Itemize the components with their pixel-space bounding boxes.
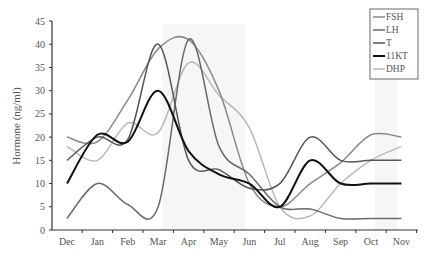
legend: FSHLHT11KTDHP — [370, 9, 418, 79]
x-tick-label: Oct — [364, 236, 379, 247]
line-chart: 051015202530354045DecJanFebMarAprMayJunJ… — [0, 0, 430, 256]
x-tick-label: Sep — [333, 236, 348, 247]
y-tick-label: 25 — [35, 108, 45, 119]
y-tick-label: 45 — [35, 16, 45, 27]
legend-label: 11KT — [386, 51, 408, 61]
shaded-region — [162, 24, 245, 230]
y-tick-label: 5 — [40, 201, 45, 212]
y-tick-label: 35 — [35, 62, 45, 73]
y-tick-label: 15 — [35, 155, 45, 166]
legend-label: LH — [386, 25, 399, 35]
x-tick-label: Jan — [91, 236, 104, 247]
x-tick-label: Nov — [393, 236, 410, 247]
y-tick-label: 10 — [35, 178, 45, 189]
legend-label: DHP — [386, 64, 405, 74]
x-tick-label: Apr — [181, 236, 197, 247]
y-tick-label: 30 — [35, 85, 45, 96]
x-tick-label: Jul — [274, 236, 286, 247]
y-axis-label: Hormone (ng/ml) — [10, 87, 23, 165]
legend-label: T — [386, 38, 392, 48]
legend-label: FSH — [386, 12, 404, 22]
y-tick-label: 20 — [35, 132, 45, 143]
x-tick-label: Jun — [242, 236, 256, 247]
y-tick-label: 0 — [40, 225, 45, 236]
y-tick-label: 40 — [35, 39, 45, 50]
chart-container: 051015202530354045DecJanFebMarAprMayJunJ… — [0, 0, 430, 256]
x-tick-label: Feb — [120, 236, 135, 247]
x-tick-label: Mar — [150, 236, 167, 247]
x-tick-label: May — [210, 236, 228, 247]
x-tick-label: Dec — [59, 236, 76, 247]
x-tick-label: Aug — [302, 236, 319, 247]
